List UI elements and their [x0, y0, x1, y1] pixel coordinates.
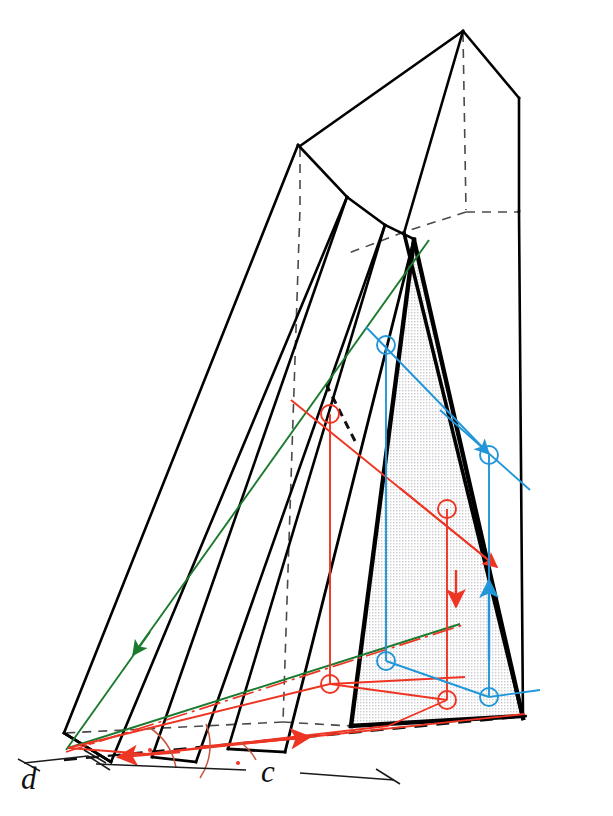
red-ground-edge: [147, 714, 525, 754]
dim-tick-c-right: [376, 769, 400, 784]
dimension-label-d: d: [21, 761, 37, 796]
dimension-line-c-left: [96, 764, 246, 770]
geometry-diagram: d c: [0, 0, 613, 816]
diagram-canvas: d c: [0, 0, 613, 816]
dimension-line-c-right: [300, 773, 394, 780]
dimension-label-c: c: [261, 754, 275, 789]
